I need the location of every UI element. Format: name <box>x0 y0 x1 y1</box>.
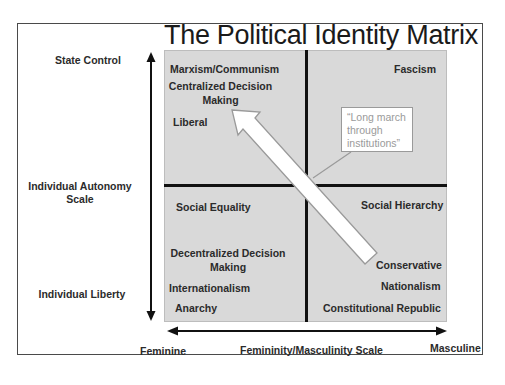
horizontal-axis-arrow <box>167 327 447 336</box>
arrows-overlay <box>0 0 505 385</box>
callout-line2: through <box>347 124 407 137</box>
callout-line3: institutions” <box>347 137 407 150</box>
callout-line1: “Long march <box>347 111 407 124</box>
callout-box: “Long march through institutions” <box>341 107 413 152</box>
callout-pointer <box>313 152 351 178</box>
vertical-axis-arrow <box>147 52 156 321</box>
